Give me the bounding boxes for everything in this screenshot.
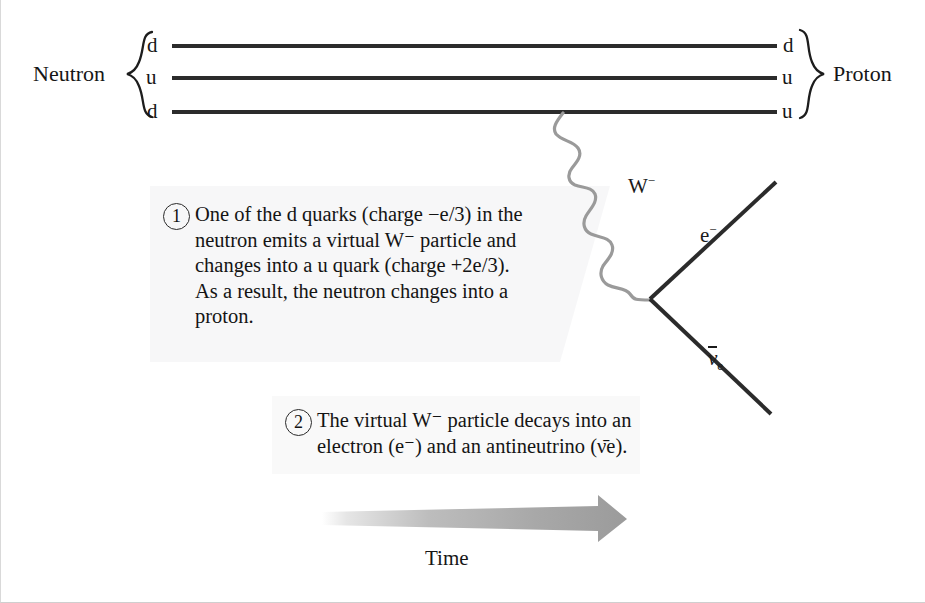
electron-charge: − [709, 222, 716, 237]
figure-canvas: Neutron d u d d u u Proton W− e− νe 1 On… [0, 0, 925, 603]
left-quark-label-2: d [147, 101, 158, 122]
w-boson-symbol: W [628, 174, 648, 198]
w-boson-label: W− [628, 176, 655, 197]
antineutrino-symbol: ν [708, 346, 717, 370]
left-quark-label-0: d [147, 35, 158, 56]
electron-label: e− [700, 225, 717, 246]
antineutrino-symbol-wrap: ν [708, 348, 717, 369]
callout-1-line-3: As a result, the neutron changes into a [195, 280, 508, 302]
callout-2-badge: 2 [285, 409, 312, 436]
proton-brace [800, 30, 824, 118]
callout-2-line-1: electron (e⁻) and an antineutrino (ν̄e). [317, 435, 627, 457]
callout-1-line-0: One of the d quarks (charge −e/3) in the [195, 203, 523, 225]
right-quark-label-1: u [782, 67, 793, 88]
antineutrino-overbar [708, 346, 716, 347]
callout-2-line-0: The virtual W⁻ particle decays into an [317, 409, 631, 431]
left-quark-label-1: u [146, 67, 157, 88]
proton-label: Proton [833, 63, 892, 85]
callout-1-line-1: neutron emits a virtual W⁻ particle and [195, 229, 516, 251]
time-axis-label: Time [425, 548, 469, 569]
callout-1-line-2: changes into a u quark (charge +2e/3). [195, 254, 510, 276]
callout-1-text: One of the d quarks (charge −e/3) in the… [195, 202, 545, 330]
neutron-label: Neutron [33, 63, 105, 85]
antineutrino-label: νe [708, 348, 723, 369]
time-arrow [322, 495, 627, 542]
callout-2-text: The virtual W⁻ particle decays into an e… [317, 408, 657, 459]
w-boson-charge: − [648, 173, 655, 188]
antineutrino-subscript: e [717, 358, 723, 373]
callout-1-line-4: proton. [195, 305, 254, 327]
callout-1-badge: 1 [163, 203, 190, 230]
right-quark-label-0: d [783, 35, 794, 56]
electron-symbol: e [700, 223, 709, 247]
right-quark-label-2: u [782, 101, 793, 122]
